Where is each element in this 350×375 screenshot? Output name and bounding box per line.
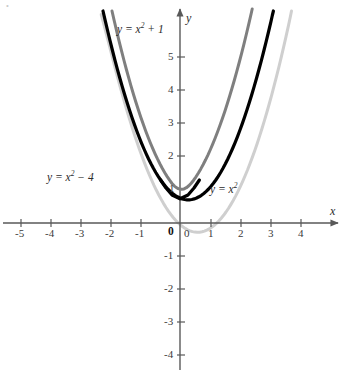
y-tick-label--2: -2 bbox=[164, 283, 173, 294]
x-axis-label: x bbox=[330, 205, 335, 217]
vertex-origin-label: 0 bbox=[168, 226, 174, 238]
graph-canvas bbox=[0, 0, 350, 375]
x-tick-label--5: -5 bbox=[15, 228, 24, 239]
x-tick-label-1: 1 bbox=[208, 228, 214, 239]
curve-label-x2-plus-1-tail: + 1 bbox=[144, 23, 163, 35]
curve-label-x2: y = x2 bbox=[210, 184, 237, 196]
y-axis-ticks bbox=[177, 57, 185, 355]
x-tick-label-0: 0 bbox=[184, 228, 190, 239]
x-tick-label-4: 4 bbox=[298, 228, 304, 239]
curve-label-x2-base: y = x bbox=[210, 183, 234, 195]
y-tick-label-4: 4 bbox=[168, 84, 174, 95]
x-tick-label--4: -4 bbox=[45, 228, 54, 239]
y-tick-label-3: 3 bbox=[168, 117, 174, 128]
parabola-graph-figure: • bbox=[0, 0, 350, 375]
x-tick-label--2: -2 bbox=[105, 228, 114, 239]
y-tick-label--1: -1 bbox=[164, 250, 173, 261]
curve-label-x2-plus-1-base: y = x bbox=[117, 23, 141, 35]
y-axis-label: y bbox=[186, 12, 191, 24]
x-tick-label-2: 2 bbox=[238, 228, 244, 239]
y-tick-label-1: 1 bbox=[169, 183, 175, 194]
y-tick-label-2: 2 bbox=[168, 150, 174, 161]
x-tick-label--3: -3 bbox=[75, 228, 84, 239]
curve-label-x2-plus-1: y = x2 + 1 bbox=[117, 24, 164, 36]
y-tick-label-5: 5 bbox=[168, 51, 174, 62]
curve-parabola-x2-plus-1 bbox=[112, 9, 252, 189]
curve-label-x2-minus-4-tail: − 4 bbox=[74, 171, 93, 183]
x-tick-label--1: -1 bbox=[135, 228, 144, 239]
curve-label-x2-minus-4: y = x2 − 4 bbox=[47, 172, 94, 184]
curve-label-x2-exponent: 2 bbox=[234, 181, 238, 190]
x-tick-label-3: 3 bbox=[268, 228, 274, 239]
y-tick-label--4: -4 bbox=[164, 349, 173, 360]
curve-label-x2-minus-4-base: y = x bbox=[47, 171, 71, 183]
y-tick-label--3: -3 bbox=[164, 316, 173, 327]
